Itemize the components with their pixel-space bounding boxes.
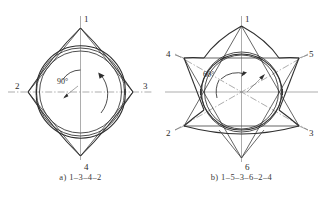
rotation-arc [100,74,108,113]
arc-edge-4 [184,58,204,59]
vertex-label-3: 3 [143,81,148,91]
arc-edge-5 [279,58,299,59]
leader-5 [299,55,308,58]
arc-edge-4-1 [204,26,242,58]
vertex-label-1: 1 [84,14,89,24]
arc-edge-5-3 [279,58,299,110]
angle-label-a: 90° [57,77,68,86]
leader-4 [175,55,184,58]
angle-arrowhead [241,71,247,77]
vertex-label-3: 3 [309,128,314,138]
panel-b: 60° 1 5 3 6 2 4 b) 1–5–3–6–2–4 [161,0,322,197]
arc-edge-1-5a [242,26,280,58]
vertex-label-4: 4 [84,162,89,172]
vertex-label-6: 6 [245,162,250,172]
leader-2 [175,126,184,130]
vertex-label-1: 1 [245,14,250,24]
angle-marker-60: 60° [203,70,247,98]
panel-a-svg: 90° 1 2 3 4 [0,0,161,197]
rotation-arrowhead [98,72,104,78]
arc-edge-6-2 [184,126,242,134]
arc-edge-3a [279,110,299,126]
panel-a-caption: a) 1–3–4–2 [0,172,161,182]
panel-b-caption: b) 1–5–3–6–2–4 [161,172,322,182]
vertex-label-2: 2 [166,128,171,138]
arc-edge-3-6 [242,126,300,134]
leader-3 [299,126,308,130]
vertex-label-4: 4 [166,49,171,59]
angle-arc-left [216,80,219,98]
vertex-label-5: 5 [309,49,314,59]
rotation-arrow [98,72,108,113]
rotation-arrow [247,74,265,92]
panel-b-axes [165,16,318,162]
arc-edge-2a [184,110,204,126]
arc-edge-2-4 [184,58,204,110]
angle-label-b: 60° [203,70,214,79]
angle-marker-90: 90° [57,70,81,98]
diagram-root: 90° 1 2 3 4 a) 1–3–4–2 [0,0,322,197]
panel-a: 90° 1 2 3 4 a) 1–3–4–2 [0,0,161,197]
panel-b-svg: 60° 1 5 3 6 2 4 [161,0,322,197]
vertex-label-2: 2 [15,81,20,91]
